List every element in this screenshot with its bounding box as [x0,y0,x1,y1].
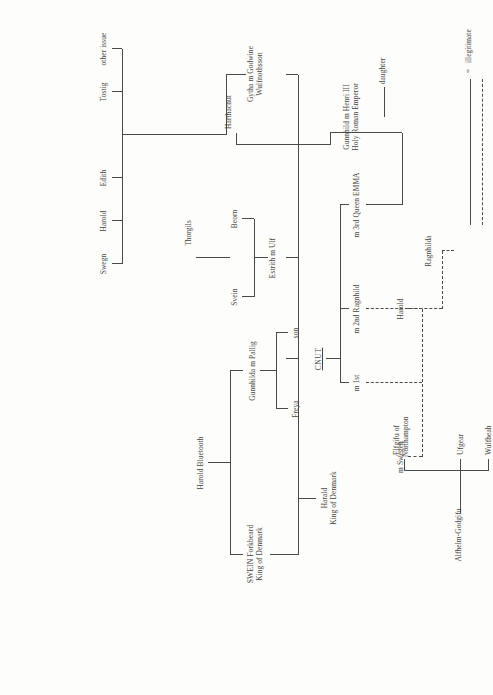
node-daughter: daughter [378,58,387,85]
node-cnut: CNUT [314,348,323,371]
edge-estrith-up [254,257,268,258]
node-harold-harefoot: Harold [396,298,405,319]
node-gunnhild-henri: Gunnhild m Henri III Holy Roman Emperor [342,67,360,167]
node-gunnhilda-pallig: Gunnhilda m Pallig [248,341,257,401]
node-edith: Edith [99,170,108,187]
edge-swein-children-bar [298,75,299,555]
edge-to-son [276,332,288,333]
edge-gytha-children-bar [122,49,123,264]
edge-m3-link [402,133,403,205]
edge-estrith-bar [254,219,255,297]
edge-to-svein [242,296,254,297]
edge-to-cnut [286,358,298,359]
edge-cnut-m2 [340,308,349,309]
node-gytha-godwine-surname: Wulfnothsson [255,52,264,96]
node-marriage-2nd: m 2nd Ragnhild [352,284,361,333]
edge-m3-vertical [236,144,330,145]
edge-cnut-m1 [340,382,349,383]
edge-alfhelm-bar [404,470,488,471]
node-harald-name: Harald [320,488,329,509]
node-thorgils: Thorgils [184,220,193,246]
edge-m2-dashed-stem [366,308,442,309]
node-swein-forkbeard: SWEIN Forkbeard King of Denmark [246,517,264,591]
node-harald: Harald King of Denmark [320,461,338,535]
node-gunnhild-henri-title: Holy Roman Emperor [351,83,360,150]
node-harald-title: King of Denmark [329,471,338,525]
legend-dashed-line [482,79,483,225]
node-ragnhilda: Ragnhilda [424,235,433,266]
edge-to-swein [230,554,243,555]
edge-to-ufgear [460,459,461,471]
node-aelfgifu-northampton: Ælfgifu of Northampton [392,387,410,457]
node-svein: Svein [230,288,239,305]
edge-to-other-issue [112,48,122,49]
node-swein-forkbeard-title: King of Denmark [255,527,264,581]
edge-gunnhilda-stem [260,370,276,371]
node-other-issue: other issue [99,33,108,66]
edge-to-harold-g [112,220,122,221]
node-estrith-ulf: Estrith m Ulf [268,238,277,278]
edge-to-edith [112,177,122,178]
edge-to-gunnhilda [230,370,243,371]
legend-illegitimate-label: illegitimate [464,29,473,63]
edge-bluetooth-bar [230,371,231,555]
edge-gytha-up [226,74,246,75]
node-harold-godwinson: Harold [99,210,108,231]
node-aelfgifu-name: Ælfgifu of [392,425,401,457]
edge-to-daughter [384,87,385,117]
edge-m3-stem [366,204,402,205]
node-ufgear: Ufgear [456,434,465,455]
edge-swein-stem [270,554,298,555]
node-harthacnut: Harthacnut [224,95,233,129]
edge-to-gytha [286,74,298,75]
edge-cnut-m3 [340,204,349,205]
edge-thorgils-stem [196,257,230,258]
edge-to-beorn [242,218,254,219]
edge-bluetooth-stem [208,462,230,463]
node-swegn: Swegn [99,254,108,275]
edge-alfhelm-stem [460,471,461,513]
node-harold-bluetooth: Harold Bluetooth [196,436,205,489]
edge-to-freya [276,408,288,409]
edge-cnut-marriage-bar [340,205,341,383]
node-swein-forkbeard-name: SWEIN Forkbeard [246,525,255,584]
edge-to-gunnhild [330,133,331,145]
node-marriage-1st: m 1st [352,375,361,392]
edge-gytha-children-spine [122,134,226,135]
node-alfhelm-godgifu: Alfhelm-Godgifu [454,508,463,561]
edge-to-harald [298,498,316,499]
edge-to-aelfgifu [404,459,405,471]
node-gunnhild-henri-name: Gunnhild m Henri III [342,84,351,149]
edge-cnut-stem [326,358,340,359]
node-aelfgifu-place: Northampton [401,416,410,457]
edge-to-tostig [112,91,122,92]
edge-m2-dashed-bar [442,251,443,309]
edge-m1-to-swegen [408,456,422,457]
edge-gunnhilda-bar [276,333,277,409]
node-wulfheah: Wulfheah [484,425,493,455]
edge-m3-children-spine [330,132,402,133]
edge-m1-dashed-bar [422,309,423,457]
node-gytha-godwine: Gytha m Godwine Wulfnothsson [246,37,264,111]
edge-to-wulfheah [488,459,489,471]
edge-m1-dashed-stem [366,382,422,383]
edge-to-harthacnut [236,133,237,145]
edge-to-swegn [112,263,122,264]
legend-solid-line [470,79,471,225]
edge-to-estrith [286,257,298,258]
node-gytha-godwine-name: Gytha m Godwine [246,46,255,102]
node-tostig: Tostig [99,83,108,102]
node-marriage-3rd: m 3rd Queen EMMA [352,172,361,237]
legend-equals: = [464,69,473,73]
node-beorn: Beorn [230,210,239,229]
edge-m2-to-ragnhilda [442,250,454,251]
